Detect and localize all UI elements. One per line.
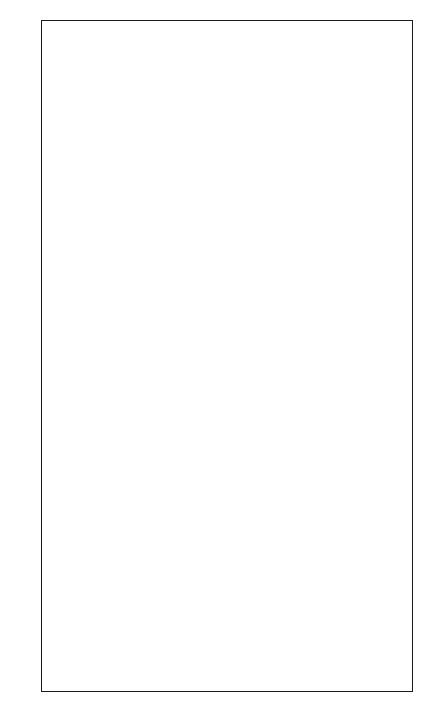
knitting-chart-grid [41, 20, 413, 692]
